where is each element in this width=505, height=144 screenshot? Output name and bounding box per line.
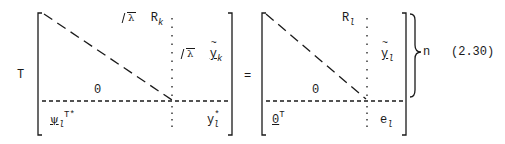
- rhs-bottom-right: el: [380, 114, 393, 126]
- lhs-top-right-block: λ Rk: [124, 12, 163, 24]
- lhs-right-bracket: [228, 13, 232, 135]
- lhs-R-subscript: k: [158, 18, 163, 28]
- zero-vector-superscript: T: [279, 110, 284, 120]
- rhs-lower-zero: 0: [312, 84, 319, 96]
- psi-subscript: l: [59, 120, 64, 130]
- psi-superscript: T*: [64, 110, 75, 120]
- rhs-bottom-left: 0T: [272, 114, 285, 126]
- sqrt-symbol: λ: [127, 12, 136, 23]
- rhs-right-bracket: [402, 13, 406, 135]
- lhs-bottom-right: y*l: [207, 114, 219, 126]
- y-subscript: l: [214, 120, 219, 130]
- lhs-right-column-block: λ yk: [183, 48, 222, 60]
- left-factor-T: T: [17, 69, 24, 81]
- e-subscript: l: [387, 120, 392, 130]
- psi-symbol: ψ: [50, 113, 59, 126]
- brace-label-n: n: [423, 46, 430, 58]
- rhs-right-column-block: yl: [381, 48, 394, 60]
- lhs-left-bracket: [38, 13, 42, 135]
- lhs-bottom-left: ψlT*: [50, 114, 75, 126]
- rhs-y-subscript: l: [388, 54, 393, 64]
- lhs-y-subscript: k: [217, 54, 222, 64]
- lhs-y-tilde-symbol: y: [210, 48, 217, 60]
- rhs-top-right-block: Rl: [342, 12, 355, 24]
- y-superscript: *: [214, 110, 219, 120]
- lhs-lower-zero: 0: [94, 84, 101, 96]
- lhs-R-symbol: R: [151, 11, 158, 25]
- lhs-diagonal: [44, 14, 172, 100]
- equation-number: (2.30): [451, 46, 494, 58]
- n-brace: [410, 14, 421, 97]
- sqrt-symbol: λ: [186, 48, 195, 59]
- equals-sign: =: [244, 70, 251, 82]
- rhs-left-bracket: [262, 13, 266, 135]
- matrix-lines: [0, 0, 505, 144]
- rhs-R-subscript: l: [349, 18, 354, 28]
